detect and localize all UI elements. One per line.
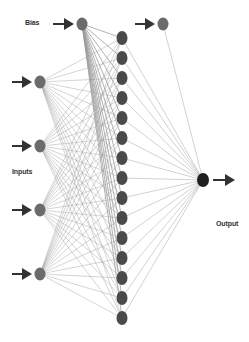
hidden-neuron <box>117 251 128 265</box>
hidden-neuron <box>117 311 128 325</box>
output-label: Output <box>216 220 238 227</box>
hidden-output-edge <box>122 180 203 318</box>
input-hidden-edge <box>40 198 122 274</box>
input-hidden-edge <box>40 82 122 158</box>
hidden-output-edge <box>122 180 203 298</box>
input-neuron <box>35 204 46 217</box>
input-hidden-edge <box>40 82 122 278</box>
hidden-neuron <box>117 191 128 205</box>
input-neuron <box>35 268 46 281</box>
hidden-neuron <box>117 51 128 65</box>
hidden-neuron <box>117 131 128 145</box>
hidden-output-edge <box>122 178 203 180</box>
hidden-neuron <box>117 151 128 165</box>
input-hidden-edge <box>40 146 122 298</box>
hidden-neuron <box>117 111 128 125</box>
input-hidden-edge <box>40 82 122 118</box>
input-hidden-edge <box>40 178 122 210</box>
hidden-output-edge <box>122 58 203 180</box>
hidden-output-edge <box>122 98 203 180</box>
hidden-neuron <box>117 291 128 305</box>
inputs-label: Inputs <box>12 168 32 175</box>
hidden-neuron <box>117 271 128 285</box>
hidden-neuron <box>117 31 128 45</box>
output-neuron <box>197 173 209 187</box>
neural-network-diagram <box>0 0 249 342</box>
hidden-output-edge <box>122 180 203 258</box>
hidden-output-edge <box>122 118 203 180</box>
hidden-bias-neuron <box>158 18 169 31</box>
hidden-neuron <box>117 71 128 85</box>
input-neuron <box>35 140 46 153</box>
hidden-output-edge <box>122 180 203 218</box>
bias-label: Bias <box>25 19 39 26</box>
input-neuron <box>35 76 46 89</box>
bias-output-edge <box>163 24 203 180</box>
hidden-neuron <box>117 91 128 105</box>
hidden-neuron <box>117 231 128 245</box>
input-hidden-edge <box>40 238 122 274</box>
input-hidden-edge <box>40 274 122 318</box>
bias-neuron <box>77 18 88 31</box>
hidden-output-edge <box>122 78 203 180</box>
input-hidden-edge <box>40 78 122 274</box>
hidden-neuron <box>117 211 128 225</box>
hidden-neuron <box>117 171 128 185</box>
